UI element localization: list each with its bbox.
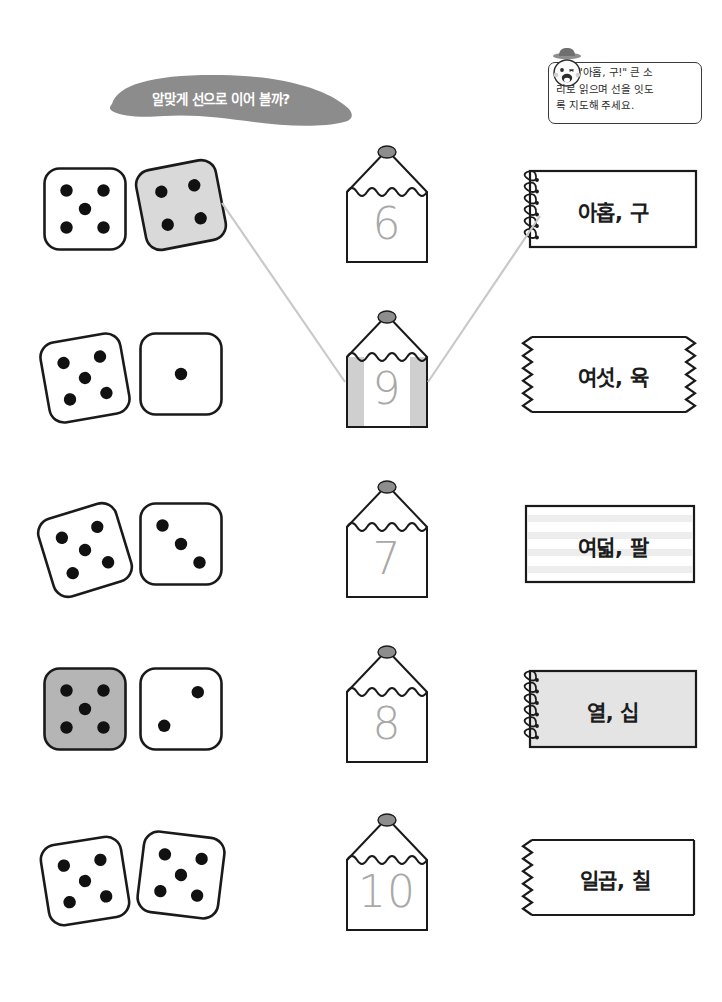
dice-pair-row-3[interactable] (40, 495, 230, 595)
die-left-row-3 (40, 505, 130, 599)
pencil-number-label: 6 (341, 198, 433, 249)
die-right-row-1 (136, 160, 226, 254)
tip-line-3: 록 지도해 주세요. (556, 97, 698, 114)
word-card-text: 아홉, 구 (520, 196, 706, 226)
die-right-row-2 (136, 329, 226, 423)
tip-line-1: "아홉, 구!" 큰 소 (578, 64, 698, 81)
word-card-3[interactable]: 여덟, 팔 (516, 503, 702, 585)
instruction-banner-text: 알맞게 선으로 이어 볼까? (126, 88, 316, 108)
die-left-row-1 (40, 164, 130, 258)
die-right-row-3 (136, 499, 226, 593)
instruction-banner: 알맞게 선으로 이어 볼까? (104, 74, 356, 140)
teacher-tip-text: "아홉, 구!" 큰 소 리로 읽으며 선을 잇도 록 지도해 주세요. (578, 64, 698, 114)
die-right-row-5 (136, 830, 226, 924)
pencil-10[interactable]: 10 (341, 810, 433, 932)
dice-pair-row-1[interactable] (40, 160, 230, 260)
die-left-row-2 (40, 333, 130, 427)
pencil-7[interactable]: 7 (341, 477, 433, 599)
pencil-number-label: 7 (341, 533, 433, 584)
word-card-4[interactable]: 열, 십 (516, 668, 702, 750)
word-card-1[interactable]: 아홉, 구 (516, 168, 702, 250)
word-card-2[interactable]: 여섯, 육 (516, 333, 702, 415)
line-dice-row-1-to-pencil-9 (222, 203, 345, 382)
pencil-number-label: 10 (341, 866, 433, 917)
pencil-6[interactable]: 6 (341, 142, 433, 264)
word-card-5[interactable]: 일곱, 칠 (516, 836, 702, 918)
dice-pair-row-5[interactable] (40, 828, 230, 928)
worksheet-page: 알맞게 선으로 이어 볼까? "아홉, 구!" 큰 소 리로 읽으며 선을 잇도… (0, 0, 722, 1002)
pencil-8[interactable]: 8 (341, 642, 433, 764)
word-card-text: 여덟, 팔 (520, 531, 706, 561)
die-right-row-4 (136, 664, 226, 758)
tip-line-2: 리로 읽으며 선을 잇도 (556, 81, 698, 98)
word-card-text: 열, 십 (520, 696, 706, 726)
word-card-text: 여섯, 육 (520, 361, 706, 391)
dice-pair-row-4[interactable] (40, 660, 230, 760)
pencil-9[interactable]: 9 (341, 307, 433, 429)
dice-pair-row-2[interactable] (40, 325, 230, 425)
pencil-number-label: 8 (341, 698, 433, 749)
die-left-row-4 (40, 664, 130, 758)
pencil-number-label: 9 (341, 363, 433, 414)
word-card-text: 일곱, 칠 (522, 864, 708, 894)
die-left-row-5 (40, 836, 130, 930)
